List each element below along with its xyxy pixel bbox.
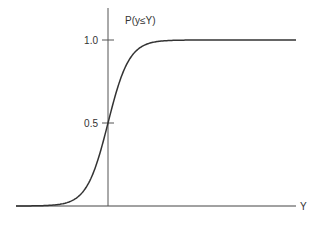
- tick-label-0-5: 0.5: [84, 118, 98, 129]
- tick-label-1-0: 1.0: [84, 35, 98, 46]
- cdf-chart: 1.0 0.5 P(y≤Y) Y: [0, 0, 317, 226]
- x-axis-label: Y: [300, 201, 307, 212]
- y-axis-label: P(y≤Y): [125, 15, 156, 26]
- cdf-curve: [16, 40, 296, 206]
